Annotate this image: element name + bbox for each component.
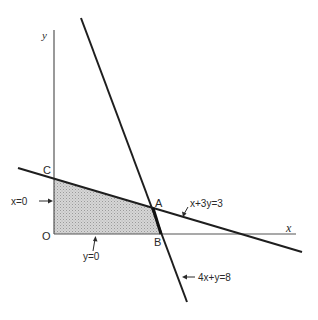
y-axis-label: y [41,29,47,41]
point-a-label: A [155,197,163,209]
x-equals-0-arrowhead-icon [48,199,53,204]
x-equals-0-label: x=0 [11,196,28,207]
line-x-plus-3y-label: x+3y=3 [190,198,223,209]
line-4x-plus-y-arrowhead-icon [182,275,187,280]
point-c-label: C [43,164,51,176]
y-equals-0-arrowhead-icon [93,236,98,242]
line-4x-plus-y-label: 4x+y=8 [198,272,231,283]
lp-diagram: y x C O A B x=0 y=0 x+3y=3 4x+y=8 [0,0,318,320]
x-axis-label: x [285,221,292,235]
y-equals-0-label: y=0 [83,251,100,262]
point-o-label: O [42,230,51,242]
point-b-label: B [154,236,161,248]
